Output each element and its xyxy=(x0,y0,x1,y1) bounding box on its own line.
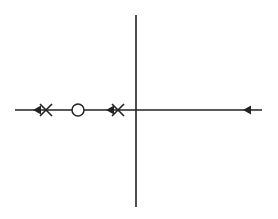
root-locus-diagram xyxy=(0,0,278,219)
axes xyxy=(15,15,262,207)
arrow-left-icon xyxy=(33,106,41,115)
arrow-left-icon xyxy=(243,106,251,115)
zero-circle-icon xyxy=(72,104,84,116)
zeros xyxy=(72,104,84,116)
arrow-left-icon xyxy=(106,106,114,115)
